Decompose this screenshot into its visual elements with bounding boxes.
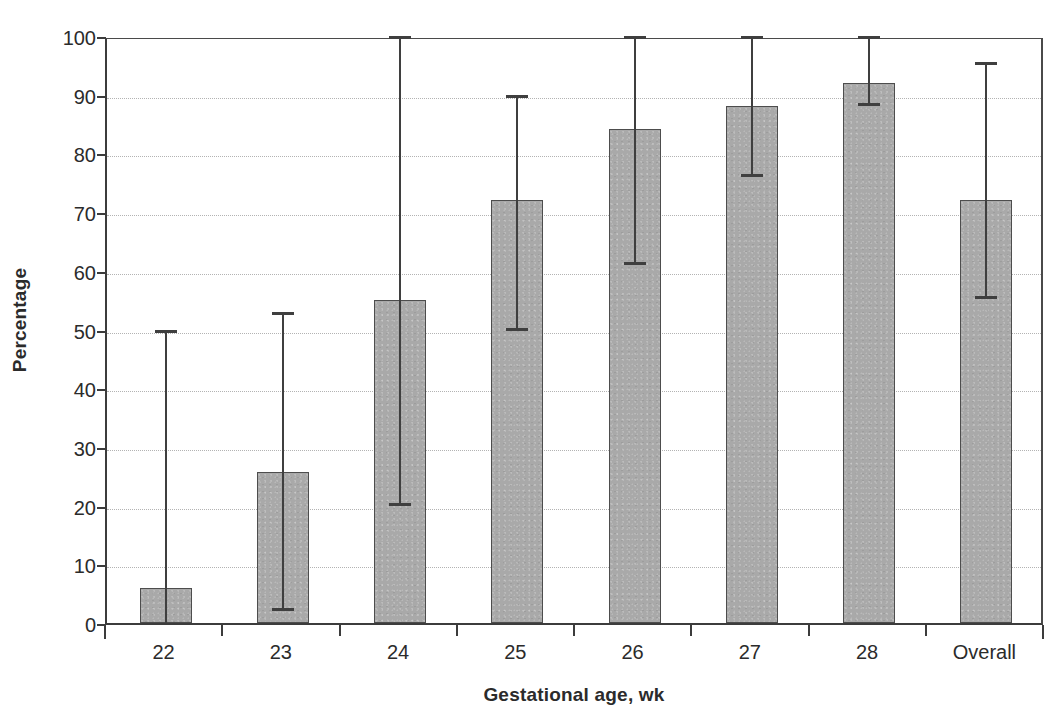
error-bar-cap-lower [624,262,646,265]
x-axis-tick-labels: 22232425262728Overall [0,642,1059,674]
error-bar [972,62,1000,299]
y-axis-tick-label: 10 [50,556,96,576]
y-axis-tick-label: 90 [50,87,96,107]
y-axis-title: Percentage [0,0,40,640]
y-axis-tick-labels: 0102030405060708090100 [44,0,96,719]
error-bar-cap-upper [272,312,294,315]
error-bar [621,36,649,265]
x-axis-tick-mark [221,625,223,636]
x-axis-tick-mark [339,625,341,636]
x-axis-tick-mark [690,625,692,636]
error-bar [738,36,766,177]
x-axis-tick-label: 28 [856,642,878,662]
error-bar-cap-upper [858,36,880,39]
error-bar [152,330,180,624]
error-bar [386,36,414,506]
y-axis-tick-label: 70 [50,204,96,224]
error-bar-cap-lower [741,174,763,177]
y-axis-tick-label: 40 [50,380,96,400]
x-axis-tick-mark [808,625,810,636]
y-axis-tick-label: 30 [50,439,96,459]
error-bar-cap-upper [506,95,528,98]
x-axis-tick-mark [573,625,575,636]
error-bar-stem [985,62,987,299]
y-axis-title-text: Percentage [9,268,31,372]
y-axis-tick-label: 60 [50,263,96,283]
error-bar-cap-upper [741,36,763,39]
y-axis-tick-label: 50 [50,322,96,342]
error-bar-cap-lower [975,296,997,299]
x-axis-tick-label: 26 [622,642,644,662]
error-bar [269,312,297,611]
bar [726,106,778,623]
error-bar-stem [399,36,401,506]
error-bar-stem [516,95,518,331]
error-bar-cap-upper [389,36,411,39]
x-axis-tick-mark [104,625,106,639]
error-bar-cap-lower [858,103,880,106]
x-axis-tick-label: 27 [739,642,761,662]
error-bar-stem [868,36,870,106]
x-axis-title: Gestational age, wk [105,684,1043,706]
error-bar-stem [634,36,636,265]
x-axis-tick-label: 25 [504,642,526,662]
error-bar-stem [165,330,167,624]
x-axis-tick-label: Overall [953,642,1016,662]
error-bar-stem [282,312,284,611]
error-bar-cap-lower [506,328,528,331]
error-bar-cap-upper [975,62,997,65]
error-bar [503,95,531,331]
bar-chart-figure: Percentage 0102030405060708090100 222324… [0,0,1059,719]
x-axis-tick-mark [1042,625,1044,639]
error-bar-cap-lower [272,608,294,611]
error-bar [855,36,883,106]
bar-series [107,39,1041,623]
x-axis-tick-marks [0,625,1059,639]
x-axis-tick-mark [456,625,458,636]
error-bar-cap-lower [389,503,411,506]
error-bar-cap-upper [155,330,177,333]
error-bar-cap-upper [624,36,646,39]
error-bar-stem [751,36,753,177]
y-axis-tick-label: 80 [50,145,96,165]
x-axis-tick-label: 24 [387,642,409,662]
y-axis-tick-label: 100 [50,28,96,48]
bar [843,83,895,623]
x-axis-tick-label: 23 [270,642,292,662]
x-axis-tick-label: 22 [153,642,175,662]
plot-area [105,38,1043,625]
y-axis-tick-label: 20 [50,498,96,518]
x-axis-tick-mark [925,625,927,636]
